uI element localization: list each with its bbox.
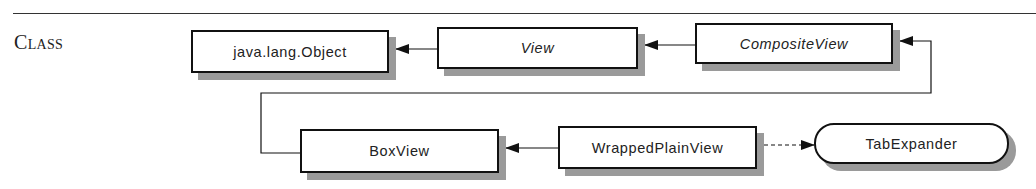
interface-node-tabexpander: TabExpander — [814, 123, 1009, 164]
interface-name: TabExpander — [865, 136, 957, 152]
class-node-compositeview: CompositeView — [695, 23, 893, 64]
class-name: BoxView — [369, 143, 429, 159]
class-node-wrappedplainview: WrappedPlainView — [558, 126, 757, 169]
class-name: CompositeView — [740, 36, 848, 52]
class-node-boxview: BoxView — [300, 129, 499, 173]
class-name: View — [521, 40, 555, 56]
class-name: WrappedPlainView — [592, 140, 724, 156]
class-node-object: java.lang.Object — [191, 30, 389, 73]
class-node-view: View — [437, 27, 638, 69]
class-name: java.lang.Object — [233, 44, 347, 60]
